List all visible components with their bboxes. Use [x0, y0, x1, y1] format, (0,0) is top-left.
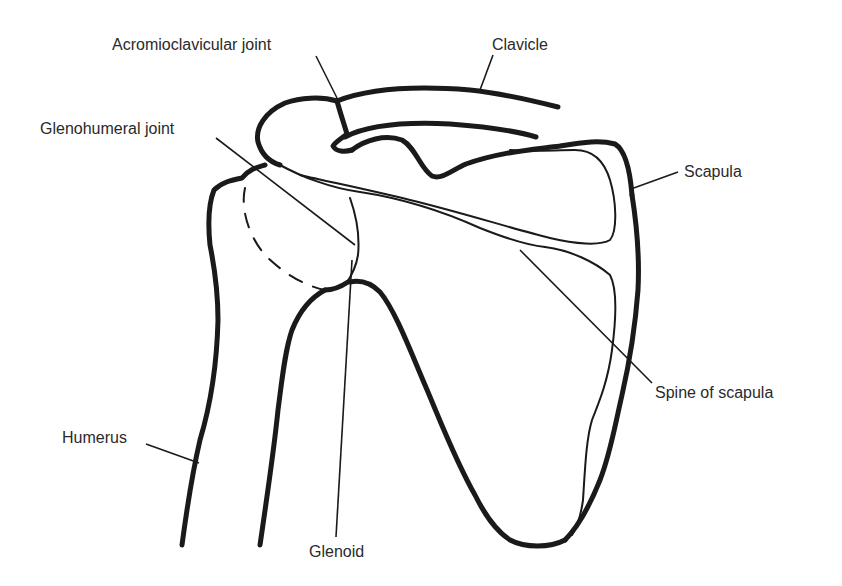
acromion-upper-edge	[345, 123, 536, 137]
scapula-lateral-border	[565, 195, 639, 540]
humeral-head-dashed-outline	[244, 188, 325, 290]
leader-glenohumeral-joint	[216, 138, 355, 245]
clavicle-outline	[337, 88, 558, 107]
scapula-inferior-border	[350, 281, 565, 546]
humerus-lateral-border	[182, 165, 265, 545]
spine-lower-line	[545, 247, 616, 535]
leader-humerus	[146, 444, 199, 463]
glenoid-fossa-curve	[346, 198, 359, 284]
shoulder-anatomy-diagram: Acromioclavicular joint Clavicle Glenohu…	[0, 0, 842, 586]
leader-glenoid	[336, 260, 352, 537]
label-acromioclavicular-joint: Acromioclavicular joint	[112, 36, 272, 53]
label-glenoid: Glenoid	[309, 543, 364, 560]
label-humerus: Humerus	[62, 429, 127, 446]
ac-joint-line	[333, 101, 352, 151]
supraspinous-inner-contour	[300, 150, 615, 244]
spine-upper-line	[280, 165, 545, 247]
leader-clavicle	[480, 55, 493, 90]
acromion-head-outline	[257, 98, 337, 165]
coracoid-outline	[352, 138, 632, 195]
label-glenohumeral-joint: Glenohumeral joint	[40, 120, 175, 137]
leader-acromioclavicular-joint	[316, 56, 338, 100]
label-clavicle: Clavicle	[492, 36, 548, 53]
humeral-head-lower-edge	[325, 282, 348, 290]
leader-scapula	[631, 172, 678, 189]
humerus-medial-border	[260, 290, 325, 545]
label-spine-of-scapula: Spine of scapula	[655, 384, 773, 401]
leader-spine-of-scapula	[520, 250, 652, 383]
label-scapula: Scapula	[684, 163, 742, 180]
